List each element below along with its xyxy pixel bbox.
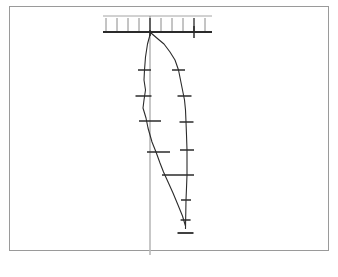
left-profile-error-bars (136, 70, 181, 175)
top-scale-ticks (106, 18, 205, 31)
figure-root (0, 0, 338, 277)
top-scale-group (103, 16, 212, 38)
profile-plot (0, 0, 338, 277)
series-group (136, 33, 195, 229)
